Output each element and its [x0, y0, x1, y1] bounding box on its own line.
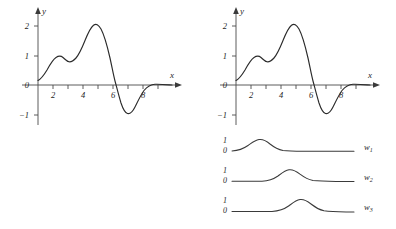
signal-curve-right	[236, 24, 370, 113]
y-tick-label-neg1-right: −1	[217, 110, 227, 120]
weight-label-w2-subscript: 2	[370, 177, 373, 183]
x-tick-label-2-right: 2	[249, 90, 254, 100]
weight-curve-w3	[232, 199, 354, 211]
y-tick-label-2-left: 2	[25, 21, 30, 31]
x-tick-label-4-left: 4	[81, 90, 86, 100]
weight-curve-w1	[232, 139, 354, 151]
weight-curve-w2	[232, 170, 354, 182]
weight-label-w3: w3	[364, 202, 373, 213]
w1-tick-label-0: 0	[223, 146, 227, 155]
y-tick-label-1-right: 1	[223, 51, 227, 61]
y-tick-label-1-left: 1	[25, 51, 29, 61]
x-axis-label-right: x	[367, 70, 372, 80]
signal-plot-left: 2 4 6 8 2 1 0 −1 x y	[0, 0, 198, 140]
y-axis-arrowhead-right	[233, 7, 239, 14]
signal-curve-left	[38, 24, 172, 113]
weight-panel-w2: 1 0 w2	[223, 166, 373, 185]
w3-tick-label-0: 0	[223, 206, 227, 215]
w2-tick-label-0: 0	[223, 176, 227, 185]
x-tick-label-4-right: 4	[279, 90, 284, 100]
weight-panel-w1: 1 0 w1	[223, 136, 373, 155]
x-axis-arrowhead-right	[373, 82, 380, 88]
w1-tick-label-1: 1	[223, 136, 227, 145]
weight-label-w2: w2	[364, 172, 373, 183]
x-tick-label-2-left: 2	[51, 90, 56, 100]
weight-panel-w3: 1 0 w3	[223, 196, 373, 215]
w2-tick-label-1: 1	[223, 166, 227, 175]
weight-function-stack: 1 0 w1 1 0 w2 1 0	[196, 136, 396, 229]
y-axis-label-right: y	[239, 6, 244, 16]
figure-canvas: 2 4 6 8 2 1 0 −1 x y	[0, 0, 396, 229]
weight-label-w1: w1	[364, 142, 373, 153]
y-axis-arrowhead-left	[35, 7, 41, 14]
x-tick-label-6-right: 6	[309, 90, 314, 100]
y-tick-label-2-right: 2	[223, 21, 228, 31]
y-tick-label-neg1-left: −1	[19, 110, 29, 120]
signal-plot-right: 2 4 6 8 2 1 0 −1 x y	[196, 0, 396, 140]
weight-label-w3-subscript: 3	[369, 207, 373, 213]
weight-label-w1-subscript: 1	[370, 147, 373, 153]
w3-tick-label-1: 1	[223, 196, 227, 205]
x-tick-label-6-left: 6	[111, 90, 116, 100]
x-axis-label-left: x	[169, 70, 174, 80]
y-axis-label-left: y	[41, 6, 46, 16]
x-axis-arrowhead-left	[175, 82, 182, 88]
